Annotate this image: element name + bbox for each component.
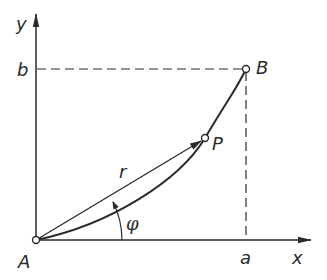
point-a-marker (33, 237, 40, 244)
vector-r-label: r (119, 161, 128, 182)
polar-curve-diagram: y x b a A B P r φ (0, 0, 327, 280)
tick-label-a: a (240, 247, 251, 268)
y-axis-label: y (15, 13, 27, 34)
tick-label-b: b (17, 59, 28, 80)
angle-phi-label: φ (126, 213, 139, 234)
point-b-marker (243, 66, 250, 73)
point-b-label: B (256, 57, 268, 78)
point-p-label: P (212, 133, 223, 154)
curve-a-to-b (36, 69, 246, 240)
angle-arc-phi (113, 202, 122, 240)
x-axis-label: x (291, 247, 303, 268)
point-p-marker (202, 135, 209, 142)
point-a-label: A (17, 251, 30, 272)
position-vector-r (36, 141, 201, 240)
